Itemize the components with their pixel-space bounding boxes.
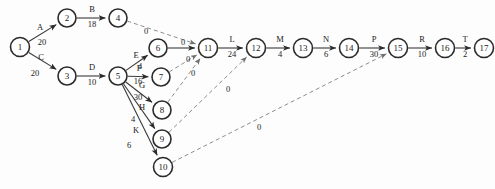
node-label-3: 3 bbox=[65, 71, 70, 81]
node-label-4: 4 bbox=[116, 13, 121, 23]
node-label-9: 9 bbox=[160, 134, 165, 144]
node-label-12: 12 bbox=[252, 43, 261, 53]
edge-duration-P: 30 bbox=[370, 49, 379, 59]
edge-duration-L: 24 bbox=[228, 49, 237, 59]
edge-duration-K: 6 bbox=[127, 140, 131, 150]
network-diagram: 1234567891011121314151617 A20B18C20D10E4… bbox=[0, 0, 495, 189]
node-label-2: 2 bbox=[65, 13, 70, 23]
node-7[interactable]: 7 bbox=[152, 68, 170, 86]
edge-duration-C: 20 bbox=[31, 68, 40, 78]
edge-duration-R: 10 bbox=[418, 49, 427, 59]
edge-name-A: A bbox=[37, 22, 44, 32]
edge-name-K: K bbox=[133, 125, 140, 135]
edge-name-E: E bbox=[133, 50, 138, 60]
edge-duration-D: 10 bbox=[88, 77, 97, 87]
node-2[interactable]: 2 bbox=[58, 9, 76, 27]
edge-name-C: C bbox=[38, 52, 44, 62]
node-12[interactable]: 12 bbox=[247, 39, 266, 58]
node-16[interactable]: 16 bbox=[436, 39, 455, 58]
edge-duration-d3: 0 bbox=[186, 54, 190, 64]
edge-name-F: F bbox=[137, 63, 142, 73]
edge-9-to-12 bbox=[169, 57, 247, 132]
edge-duration-d4: 0 bbox=[191, 68, 195, 78]
edge-8-to-11 bbox=[168, 59, 200, 103]
node-label-1: 1 bbox=[18, 42, 23, 52]
node-label-13: 13 bbox=[299, 43, 309, 53]
node-label-14: 14 bbox=[345, 43, 355, 53]
edge-labels-layer: A20B18C20D10E4F16G30H4K6L24M4N6P30R10T20… bbox=[31, 4, 469, 150]
node-label-8: 8 bbox=[160, 105, 165, 115]
node-label-7: 7 bbox=[159, 72, 164, 82]
node-17[interactable]: 17 bbox=[475, 39, 494, 58]
node-11[interactable]: 11 bbox=[199, 39, 218, 58]
node-label-16: 16 bbox=[441, 43, 451, 53]
edge-duration-N: 6 bbox=[324, 49, 328, 59]
edge-duration-M: 4 bbox=[278, 49, 283, 59]
node-label-17: 17 bbox=[480, 43, 490, 53]
node-4[interactable]: 4 bbox=[109, 9, 127, 27]
edge-name-T: T bbox=[462, 34, 468, 44]
edge-name-M: M bbox=[276, 34, 284, 44]
edge-duration-d2: 0 bbox=[181, 37, 185, 47]
node-14[interactable]: 14 bbox=[340, 39, 359, 58]
edge-name-D: D bbox=[89, 62, 95, 72]
node-13[interactable]: 13 bbox=[294, 39, 313, 58]
edge-duration-B: 18 bbox=[88, 19, 97, 29]
edge-name-L: L bbox=[229, 34, 234, 44]
edge-name-P: P bbox=[372, 34, 377, 44]
node-9[interactable]: 9 bbox=[153, 130, 171, 148]
edge-duration-A: 20 bbox=[38, 37, 47, 47]
node-3[interactable]: 3 bbox=[58, 67, 76, 85]
node-label-6: 6 bbox=[156, 43, 161, 53]
network-svg: 1234567891011121314151617 A20B18C20D10E4… bbox=[0, 0, 495, 189]
node-label-5: 5 bbox=[116, 71, 121, 81]
edge-duration-d5: 0 bbox=[226, 84, 230, 94]
node-label-11: 11 bbox=[204, 43, 213, 53]
edge-name-N: N bbox=[323, 34, 329, 44]
node-6[interactable]: 6 bbox=[149, 39, 167, 57]
edge-name-G: G bbox=[139, 80, 145, 90]
node-5[interactable]: 5 bbox=[109, 67, 127, 85]
edge-duration-H: 4 bbox=[131, 114, 136, 124]
node-1[interactable]: 1 bbox=[11, 38, 30, 57]
edge-duration-d6: 0 bbox=[257, 122, 261, 132]
node-8[interactable]: 8 bbox=[153, 101, 171, 119]
node-label-15: 15 bbox=[394, 43, 404, 53]
edge-10-to-15 bbox=[172, 54, 386, 162]
edge-duration-T: 2 bbox=[463, 49, 467, 59]
node-label-10: 10 bbox=[159, 162, 169, 172]
edges-layer bbox=[29, 18, 471, 162]
edge-name-H: H bbox=[139, 102, 145, 112]
edge-duration-d1: 0 bbox=[144, 26, 148, 36]
node-10[interactable]: 10 bbox=[154, 158, 173, 177]
edge-duration-G: 30 bbox=[134, 92, 143, 102]
edge-name-B: B bbox=[89, 4, 95, 14]
edge-name-R: R bbox=[419, 34, 425, 44]
node-15[interactable]: 15 bbox=[389, 39, 408, 58]
